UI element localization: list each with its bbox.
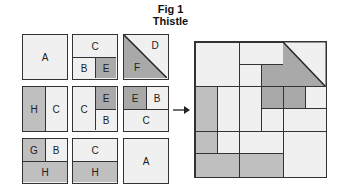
block-ceb: C E B: [72, 86, 118, 132]
quilt-patch-b: [239, 64, 262, 87]
patch-c: C: [73, 87, 95, 131]
patch-h: H: [73, 161, 117, 182]
block-df-triangle: D F: [123, 34, 169, 80]
patch-c: C: [73, 35, 117, 57]
patch-h: H: [23, 161, 67, 182]
block-cbe: C B E: [72, 34, 118, 80]
quilt-patch-c: [239, 131, 284, 154]
patch-a: A: [23, 35, 67, 79]
patch-e: E: [95, 57, 116, 78]
quilt-patch-c: [217, 86, 240, 132]
quilt-patch-c: [283, 108, 327, 132]
quilt-patch-c: [239, 42, 284, 65]
patch-e: E: [95, 87, 116, 109]
patch-b: B: [45, 139, 66, 161]
block-ch: C H: [72, 138, 118, 184]
patch-c: C: [73, 139, 117, 161]
quilt-patch-b: [261, 108, 284, 132]
quilt-patch-e: [261, 64, 284, 87]
quilt-patch-a: [195, 42, 240, 87]
patch-c: C: [45, 87, 66, 131]
quilt-patch-h: [195, 86, 218, 132]
quilt-patch-e: [283, 86, 306, 109]
patch-b: B: [73, 57, 95, 78]
quilt-patch-h: [239, 153, 284, 178]
quilt-patch-h: [195, 153, 240, 178]
right-arrow-icon: [173, 104, 191, 116]
block-ebc: E B C: [123, 86, 169, 132]
block-a-top-left: A: [22, 34, 68, 80]
quilt-patch-e: [261, 86, 284, 109]
figure-title: Thistle: [0, 15, 341, 27]
quilt-triangle-df: [283, 42, 326, 87]
patch-b: B: [95, 109, 116, 130]
patch-f: F: [129, 59, 145, 75]
assembled-quilt-block: [194, 41, 327, 178]
patch-d: D: [146, 37, 164, 53]
patch-e: E: [124, 87, 146, 109]
block-gbh: G B H: [22, 138, 68, 184]
quilt-patch-b: [305, 86, 327, 109]
quilt-patch-a: [283, 131, 327, 178]
patch-c: C: [124, 109, 168, 130]
figure-number: Fig 1: [0, 3, 341, 15]
quilt-patch-b: [217, 131, 240, 154]
patch-b: B: [146, 87, 167, 109]
patch-g: G: [23, 139, 45, 161]
block-a-bottom-right: A: [123, 138, 169, 184]
quilt-patch-c: [239, 86, 262, 132]
quilt-patch-g: [195, 131, 218, 154]
patch-h: H: [23, 87, 45, 131]
block-hc: H C: [22, 86, 68, 132]
patch-a: A: [124, 139, 168, 183]
